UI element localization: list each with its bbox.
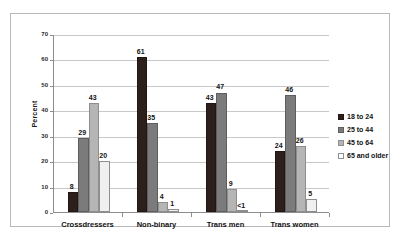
chart-frame: Percent 0102030405060708294320Crossdress… [10, 13, 390, 227]
bar-value-label: 26 [289, 137, 312, 144]
y-tick-label: 0 [32, 209, 48, 215]
x-tick-mark [122, 213, 123, 217]
y-tick-label: 40 [32, 107, 48, 113]
x-category-label: Trans men [191, 220, 260, 229]
plot-area [53, 35, 329, 213]
bar-non-binary-18-to-24 [137, 57, 148, 212]
bar-value-label: 35 [140, 114, 163, 121]
y-tick-mark [50, 35, 53, 36]
chart-figure: Percent 0102030405060708294320Crossdress… [0, 0, 403, 239]
y-tick-label: 10 [32, 184, 48, 190]
legend-label: 25 to 44 [347, 126, 373, 133]
legend-swatch-icon [338, 153, 344, 159]
x-tick-mark [191, 213, 192, 217]
bar-trans-men-25-to-44 [216, 93, 227, 213]
y-tick-mark [50, 111, 53, 112]
bar-value-label: 43 [82, 94, 105, 101]
y-tick-mark [50, 60, 53, 61]
bar-value-label: 5 [299, 190, 322, 197]
legend-label: 45 to 64 [347, 139, 373, 146]
bar-value-label: 24 [268, 142, 291, 149]
y-tick-label: 30 [32, 133, 48, 139]
bar-trans-women-65-and-older [306, 199, 317, 212]
bar-value-label: 20 [92, 152, 115, 159]
y-tick-label: 20 [32, 158, 48, 164]
x-tick-mark [329, 213, 330, 217]
bar-value-label: 1 [161, 200, 184, 207]
x-category-label: Crossdressers [53, 220, 122, 229]
legend-label: 65 and older [347, 152, 388, 159]
bar-trans-women-25-to-44 [285, 95, 296, 212]
y-tick-label: 50 [32, 82, 48, 88]
legend-swatch-icon [338, 127, 344, 133]
y-tick-label: 60 [32, 56, 48, 62]
bar-value-label: 47 [209, 83, 232, 90]
bar-non-binary-65-and-older [168, 209, 179, 212]
bar-value-label: 9 [220, 180, 243, 187]
y-tick-label: 70 [32, 31, 48, 37]
legend-item-25-to-44[interactable]: 25 to 44 [338, 123, 400, 136]
bar-crossdressers-18-to-24 [68, 192, 79, 212]
y-tick-mark [50, 162, 53, 163]
bar-trans-women-18-to-24 [275, 151, 286, 212]
bar-value-label: 43 [199, 94, 222, 101]
y-tick-mark [50, 213, 53, 214]
y-tick-mark [50, 86, 53, 87]
bar-value-label: 4 [151, 193, 174, 200]
y-tick-mark [50, 137, 53, 138]
bar-trans-women-45-to-64 [296, 146, 307, 212]
legend-swatch-icon [338, 140, 344, 146]
bar-crossdressers-25-to-44 [78, 138, 89, 212]
gridline [54, 60, 329, 61]
bar-trans-men-18-to-24 [206, 103, 217, 212]
legend-label: 18 to 24 [347, 113, 373, 120]
bar-value-label: <1 [230, 202, 253, 209]
legend-item-65-and-older[interactable]: 65 and older [338, 149, 400, 162]
x-category-label: Trans women [260, 220, 329, 229]
x-category-label: Non-binary [122, 220, 191, 229]
x-tick-mark [260, 213, 261, 217]
bar-value-label: 8 [61, 183, 84, 190]
legend-item-45-to-64[interactable]: 45 to 64 [338, 136, 400, 149]
bar-value-label: 29 [71, 129, 94, 136]
gridline [54, 35, 329, 36]
legend: 18 to 2425 to 4445 to 6465 and older [338, 110, 400, 162]
bar-value-label: 46 [278, 86, 301, 93]
bar-crossdressers-65-and-older [99, 161, 110, 212]
legend-item-18-to-24[interactable]: 18 to 24 [338, 110, 400, 123]
bar-trans-men-65-and-older [237, 210, 248, 212]
legend-swatch-icon [338, 114, 344, 120]
bar-value-label: 61 [130, 48, 153, 55]
y-tick-mark [50, 188, 53, 189]
